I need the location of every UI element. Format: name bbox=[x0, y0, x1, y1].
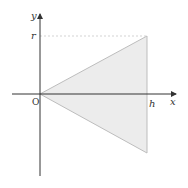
y-axis-label: y bbox=[30, 10, 37, 21]
radius-label: r bbox=[31, 30, 37, 41]
height-label: h bbox=[149, 98, 155, 109]
origin-label: O bbox=[32, 97, 39, 107]
x-axis-label: x bbox=[170, 96, 176, 107]
cone-diagram: y x O h r bbox=[0, 0, 188, 188]
